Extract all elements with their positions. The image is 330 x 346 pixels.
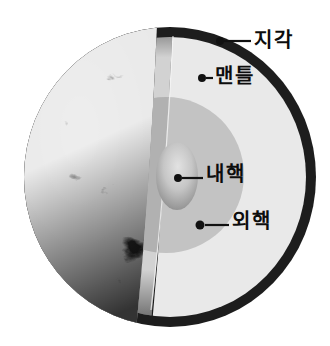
inner-core-dot <box>174 174 182 182</box>
label-crust: 지각 <box>254 29 294 51</box>
outer-core-dot <box>196 221 205 230</box>
label-inner-core: 내핵 <box>206 163 246 185</box>
earth-structure-diagram: 지각 맨틀 내핵 외핵 <box>0 0 330 346</box>
crust-dot <box>216 37 224 45</box>
label-mantle: 맨틀 <box>215 65 255 87</box>
label-outer-core: 외핵 <box>232 210 272 232</box>
mantle-dot <box>198 74 206 82</box>
